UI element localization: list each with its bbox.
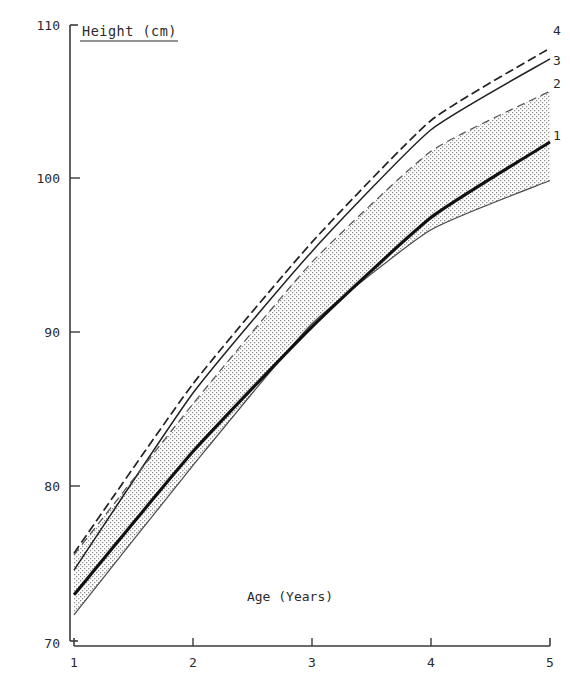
band-lower-boundary-line xyxy=(74,181,550,615)
series-end-label-4: 4 xyxy=(553,23,561,38)
x-axis-label: Age (Years) xyxy=(247,589,333,604)
x-tick-label-5: 5 xyxy=(546,655,554,670)
series-end-label-1: 1 xyxy=(553,128,561,143)
y-tick-label-70: 70 xyxy=(44,636,60,651)
series-line-1 xyxy=(74,142,550,595)
chart-title: Height (cm) xyxy=(82,23,177,39)
reference-band-area xyxy=(74,91,550,615)
y-tick-label-110: 110 xyxy=(37,18,60,33)
y-tick-label-80: 80 xyxy=(44,479,60,494)
y-tick-label-90: 90 xyxy=(44,325,60,340)
series-end-label-2: 2 xyxy=(553,76,561,91)
chart-canvas: 110 100 90 80 70 1 2 3 4 5 Height (cm) A… xyxy=(0,0,570,678)
growth-chart: 110 100 90 80 70 1 2 3 4 5 Height (cm) A… xyxy=(0,0,570,678)
x-tick-label-3: 3 xyxy=(308,655,316,670)
x-tick-label-1: 1 xyxy=(70,655,78,670)
x-tick-label-2: 2 xyxy=(189,655,197,670)
series-end-label-3: 3 xyxy=(553,53,561,68)
y-tick-label-100: 100 xyxy=(37,171,60,186)
x-tick-label-4: 4 xyxy=(427,655,435,670)
